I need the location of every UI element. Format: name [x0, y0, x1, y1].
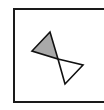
- lower-right-triangle-shape: [58, 59, 83, 84]
- bowtie-diagram: [0, 0, 104, 110]
- upper-left-triangle-shape: [32, 32, 58, 59]
